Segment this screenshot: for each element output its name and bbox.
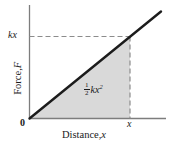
x-axis-title-symbol: x — [101, 129, 106, 140]
plot-canvas — [0, 0, 170, 143]
fraction-denominator: 2 — [84, 89, 90, 97]
x-axis-title-text: Distance, — [62, 129, 101, 140]
origin-label: 0 — [20, 118, 25, 128]
area-label-term: kx2 — [91, 84, 103, 95]
y-axis-title-symbol: F — [12, 62, 23, 68]
fraction-numerator: 1 — [84, 82, 90, 89]
y-axis-title-text: Force, — [12, 68, 23, 95]
x-axis-tick-label-x: x — [127, 119, 131, 129]
force-vs-distance-figure: kx x 0 Force,F Distance,x 1 2 kx2 — [0, 0, 170, 143]
shaded-area-label: 1 2 kx2 — [84, 82, 103, 98]
y-axis-title: Force,F — [13, 48, 24, 108]
x-axis-title: Distance,x — [29, 130, 139, 141]
y-axis-tick-label-kx: kx — [8, 30, 17, 40]
area-label-exponent: 2 — [99, 83, 102, 90]
one-half-fraction: 1 2 — [84, 82, 90, 98]
